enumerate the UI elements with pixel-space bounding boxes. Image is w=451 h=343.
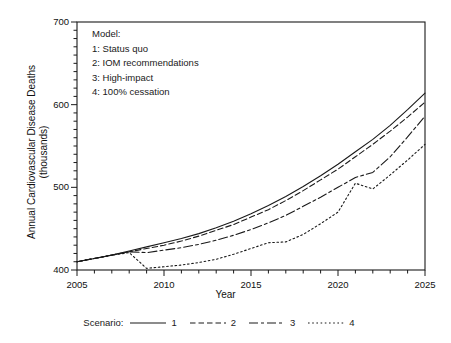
series-line-1 [77, 93, 425, 262]
model-annotation: Model: 1: Status quo 2: IOM recommendati… [92, 27, 199, 100]
legend-title: Scenario: [83, 317, 123, 328]
legend-line-sample-2 [190, 318, 226, 328]
y-axis-ticks [71, 22, 77, 270]
y-axis-title: Annual Cardiovascular Disease Deaths (th… [26, 42, 50, 262]
y-axis-title-line2: (thousands) [38, 42, 50, 262]
series-line-4 [77, 144, 425, 268]
legend-line-sample-4 [308, 318, 344, 328]
x-axis-title: Year [0, 289, 451, 300]
legend-item-2: 2 [190, 317, 236, 328]
model-annotation-line-4: 4: 100% cessation [92, 85, 199, 100]
legend-line-sample-1 [130, 318, 166, 328]
chart-legend: Scenario: 1234 [0, 317, 451, 328]
series-line-3 [77, 116, 425, 261]
legend-item-4: 4 [308, 317, 354, 328]
y-tick-label: 700 [39, 16, 69, 27]
chart-figure: 20052010201520202025 400500600700 Annual… [0, 0, 451, 343]
legend-item-1: 1 [130, 317, 176, 328]
data-series-group [77, 93, 425, 268]
model-annotation-line-2: 2: IOM recommendations [92, 56, 199, 71]
y-axis-title-line1: Annual Cardiovascular Disease Deaths [26, 42, 38, 262]
legend-label-3: 3 [290, 317, 295, 328]
legend-item-3: 3 [249, 317, 295, 328]
legend-label-1: 1 [171, 317, 176, 328]
x-axis-ticks [77, 270, 425, 276]
legend-label-2: 2 [231, 317, 236, 328]
legend-line-sample-3 [249, 318, 285, 328]
y-tick-label: 400 [39, 264, 69, 275]
model-annotation-header: Model: [92, 27, 199, 42]
model-annotation-line-1: 1: Status quo [92, 42, 199, 57]
legend-label-4: 4 [349, 317, 354, 328]
model-annotation-line-3: 3: High-impact [92, 71, 199, 86]
series-line-2 [77, 102, 425, 262]
